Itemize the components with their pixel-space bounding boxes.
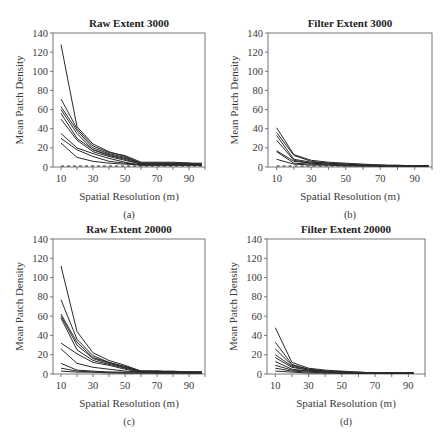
x-tick-label: 10 — [270, 380, 281, 391]
x-tick-label: 50 — [337, 380, 348, 391]
x-tick-label: 90 — [403, 380, 414, 391]
y-tick-label: 20 — [252, 349, 263, 360]
x-tick-label: 50 — [120, 380, 131, 391]
y-tick-label: 40 — [38, 330, 49, 341]
y-tick-label: 140 — [32, 28, 48, 39]
chart-panel-d: 0204060801001201401030507090Filter Exten… — [227, 223, 425, 428]
chart-panel-a: 0204060801001201401030507090Raw Extent 3… — [13, 17, 205, 221]
plot-area — [268, 33, 432, 167]
y-tick-label: 80 — [38, 85, 49, 96]
x-tick-label: 10 — [56, 380, 67, 391]
y-axis-label: Mean Patch Density — [13, 261, 25, 351]
x-tick-label: 70 — [152, 380, 163, 391]
y-tick-label: 120 — [247, 47, 263, 58]
y-tick-label: 0 — [43, 162, 48, 173]
x-tick-label: 70 — [152, 173, 163, 184]
plot-area — [267, 239, 425, 374]
y-tick-label: 20 — [253, 142, 264, 153]
y-tick-label: 20 — [38, 349, 49, 360]
x-axis-label: Spatial Resolution (m) — [296, 397, 396, 410]
panel-caption: (d) — [340, 416, 353, 428]
chart-title: Filter Extent 20000 — [301, 223, 392, 235]
y-tick-label: 80 — [252, 291, 263, 302]
y-tick-label: 20 — [38, 142, 49, 153]
series-line — [61, 300, 202, 372]
x-axis-label: Spatial Resolution (m) — [79, 190, 179, 203]
y-tick-label: 100 — [32, 66, 48, 77]
y-tick-label: 60 — [38, 104, 49, 115]
y-tick-label: 60 — [253, 104, 264, 115]
x-tick-label: 50 — [340, 173, 351, 184]
series-line — [61, 99, 202, 163]
y-tick-label: 120 — [246, 253, 262, 264]
x-tick-label: 30 — [306, 173, 317, 184]
series-line — [61, 107, 202, 164]
chart-title: Raw Extent 20000 — [86, 223, 172, 235]
y-tick-label: 60 — [38, 311, 49, 322]
y-tick-label: 140 — [247, 28, 263, 39]
x-tick-label: 10 — [271, 173, 282, 184]
y-tick-label: 80 — [253, 85, 264, 96]
y-tick-label: 80 — [38, 291, 49, 302]
plot-area — [53, 239, 205, 374]
y-tick-label: 120 — [32, 253, 48, 264]
y-tick-label: 40 — [253, 123, 264, 134]
chart-panel-b: 0204060801001201401030507090Filter Exten… — [228, 17, 432, 221]
y-axis-label: Mean Patch Density — [228, 55, 240, 145]
panel-caption: (b) — [344, 209, 357, 221]
figure-canvas: 0204060801001201401030507090Raw Extent 3… — [0, 0, 446, 441]
y-tick-label: 0 — [258, 162, 263, 173]
y-tick-label: 140 — [32, 234, 48, 245]
x-axis-label: Spatial Resolution (m) — [79, 397, 179, 410]
y-tick-label: 40 — [38, 123, 49, 134]
panel-caption: (a) — [123, 209, 135, 221]
x-tick-label: 30 — [88, 380, 99, 391]
y-tick-label: 100 — [247, 66, 263, 77]
y-tick-label: 60 — [252, 311, 263, 322]
y-tick-label: 120 — [32, 47, 48, 58]
y-tick-label: 0 — [257, 369, 262, 380]
y-tick-label: 100 — [32, 272, 48, 283]
chart-title: Filter Extent 3000 — [308, 17, 393, 29]
x-tick-label: 30 — [88, 173, 99, 184]
y-tick-label: 0 — [43, 369, 48, 380]
x-tick-label: 90 — [184, 173, 195, 184]
chart-title: Raw Extent 3000 — [89, 17, 170, 29]
x-tick-label: 70 — [375, 173, 386, 184]
series-line — [61, 45, 202, 165]
x-tick-label: 90 — [184, 380, 195, 391]
y-tick-label: 140 — [246, 234, 262, 245]
x-axis-label: Spatial Resolution (m) — [300, 190, 400, 203]
x-tick-label: 70 — [370, 380, 381, 391]
y-tick-label: 100 — [246, 272, 262, 283]
x-tick-label: 90 — [409, 173, 420, 184]
x-tick-label: 10 — [56, 173, 67, 184]
x-tick-label: 30 — [303, 380, 314, 391]
series-line — [61, 314, 202, 372]
x-tick-label: 50 — [120, 173, 131, 184]
y-axis-label: Mean Patch Density — [13, 55, 25, 145]
panel-caption: (c) — [123, 416, 135, 428]
chart-panel-c: 0204060801001201401030507090Raw Extent 2… — [13, 223, 205, 428]
y-axis-label: Mean Patch Density — [227, 261, 239, 351]
y-tick-label: 40 — [252, 330, 263, 341]
